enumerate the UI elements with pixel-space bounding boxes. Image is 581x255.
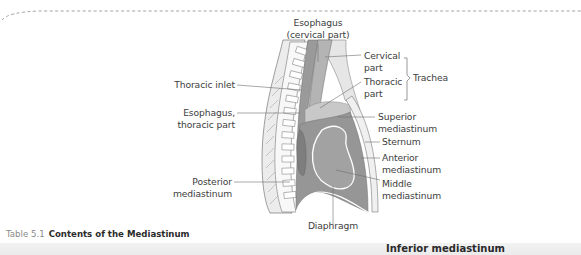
label-thoracic-inlet: Thoracic inlet <box>160 79 235 91</box>
label-diaphragm: Diaphragm <box>300 220 366 232</box>
label-line: Cervical <box>364 50 400 62</box>
table-number: Table 5.1 <box>6 229 45 239</box>
label-line: Superior <box>378 111 437 123</box>
label-esophagus-thoracic: Esophagus, thoracic part <box>160 107 235 131</box>
label-posterior-mediastinum: Posterior mediastinum <box>160 176 232 200</box>
label-line: Anterior <box>382 152 441 164</box>
label-line: thoracic part <box>160 119 235 131</box>
label-line: (cervical part) <box>282 29 354 41</box>
label-line: Thoracic <box>364 76 402 88</box>
label-line: part <box>364 88 402 100</box>
label-sternum: Sternum <box>382 136 421 148</box>
label-superior-mediastinum: Superior mediastinum <box>378 111 437 135</box>
table-title: Contents of the Mediastinum <box>49 229 190 239</box>
label-line: mediastinum <box>160 188 232 200</box>
label-line: Posterior <box>160 176 232 188</box>
label-line: Esophagus <box>282 17 354 29</box>
label-esophagus-cervical: Esophagus (cervical part) <box>282 17 354 41</box>
label-thoracic-part: Thoracic part <box>364 76 402 100</box>
table-caption: Table 5.1Contents of the Mediastinum <box>6 228 190 240</box>
label-line: Esophagus, <box>160 107 235 119</box>
label-line: Middle <box>382 178 441 190</box>
label-cervical-part: Cervical part <box>364 50 400 74</box>
label-anterior-mediastinum: Anterior mediastinum <box>382 152 441 176</box>
label-middle-mediastinum: Middle mediastinum <box>382 178 441 202</box>
label-line: part <box>364 62 400 74</box>
column-header-inferior-mediastinum: Inferior mediastinum <box>386 242 505 255</box>
label-line: mediastinum <box>378 123 437 135</box>
label-line: mediastinum <box>382 164 441 176</box>
label-trachea: Trachea <box>413 72 448 84</box>
label-line: mediastinum <box>382 190 441 202</box>
